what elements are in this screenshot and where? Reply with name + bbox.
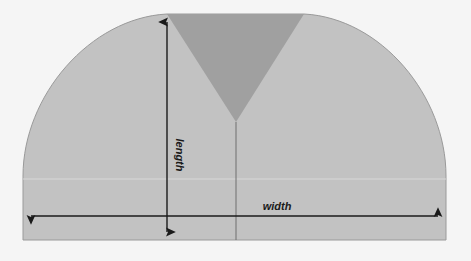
diagram-canvas: length width [0, 0, 471, 261]
length-label: length [174, 139, 186, 172]
width-label: width [263, 200, 292, 212]
shape-diagram: length width [0, 0, 471, 261]
